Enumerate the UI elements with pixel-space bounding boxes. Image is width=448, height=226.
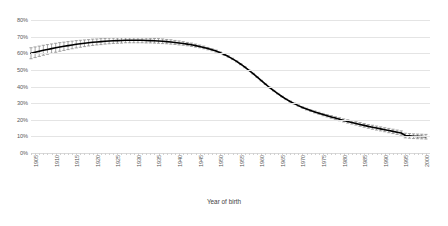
- x-minor-tick: [302, 153, 303, 155]
- x-minor-tick: [274, 153, 275, 155]
- x-minor-tick: [286, 153, 287, 155]
- x-minor-tick: [204, 153, 205, 155]
- x-minor-tick: [171, 153, 172, 155]
- y-tick-label: 40%: [17, 84, 28, 90]
- x-minor-tick: [163, 153, 164, 155]
- x-minor-tick: [191, 153, 192, 155]
- x-minor-tick: [278, 153, 279, 155]
- x-minor-tick: [146, 153, 147, 155]
- gridline: [31, 70, 430, 71]
- x-minor-tick: [105, 153, 106, 155]
- x-minor-tick: [56, 153, 57, 155]
- x-minor-tick: [175, 153, 176, 155]
- x-tick-label: 1920: [95, 155, 101, 167]
- x-minor-tick: [307, 153, 308, 155]
- x-minor-tick: [142, 153, 143, 155]
- gridline: [31, 37, 430, 38]
- x-axis-title: Year of birth: [0, 198, 448, 205]
- x-minor-tick: [422, 153, 423, 155]
- x-minor-tick: [237, 153, 238, 155]
- x-minor-tick: [372, 153, 373, 155]
- x-minor-tick: [72, 153, 73, 155]
- x-minor-tick: [352, 153, 353, 155]
- gridline: [31, 136, 430, 137]
- x-minor-tick: [270, 153, 271, 155]
- x-minor-tick: [35, 153, 36, 155]
- data-line: [31, 40, 426, 136]
- x-minor-tick: [130, 153, 131, 155]
- plot-area: [31, 20, 430, 153]
- x-minor-tick: [97, 153, 98, 155]
- x-minor-tick: [257, 153, 258, 155]
- x-minor-tick: [294, 153, 295, 155]
- x-minor-tick: [418, 153, 419, 155]
- x-minor-tick: [167, 153, 168, 155]
- x-tick-label: 1940: [177, 155, 183, 167]
- figure-caption: [0, 220, 448, 226]
- x-minor-tick: [179, 153, 180, 155]
- x-minor-tick: [381, 153, 382, 155]
- x-minor-tick: [377, 153, 378, 155]
- x-minor-tick: [249, 153, 250, 155]
- gridline: [31, 103, 430, 104]
- x-minor-tick: [60, 153, 61, 155]
- x-minor-tick: [76, 153, 77, 155]
- x-tick-label: 1905: [33, 155, 39, 167]
- x-minor-tick: [47, 153, 48, 155]
- x-minor-tick: [39, 153, 40, 155]
- x-minor-tick: [138, 153, 139, 155]
- x-minor-tick: [385, 153, 386, 155]
- x-minor-tick: [159, 153, 160, 155]
- x-minor-tick: [89, 153, 90, 155]
- gridline: [31, 20, 430, 21]
- x-tick-label: 1925: [115, 155, 121, 167]
- x-minor-tick: [150, 153, 151, 155]
- x-minor-tick: [80, 153, 81, 155]
- x-tick-label: 1930: [136, 155, 142, 167]
- x-minor-tick: [327, 153, 328, 155]
- y-tick-label: 20%: [17, 117, 28, 123]
- x-tick-label: 1915: [74, 155, 80, 167]
- x-minor-tick: [360, 153, 361, 155]
- x-minor-tick: [261, 153, 262, 155]
- y-tick-label: 30%: [17, 100, 28, 106]
- x-tick-label: 1935: [156, 155, 162, 167]
- x-minor-tick: [245, 153, 246, 155]
- y-tick-label: 50%: [17, 67, 28, 73]
- x-minor-tick: [84, 153, 85, 155]
- x-minor-tick: [253, 153, 254, 155]
- y-axis: 0%10%20%30%40%50%60%70%80%: [0, 20, 28, 153]
- x-minor-tick: [31, 153, 32, 155]
- x-minor-tick: [393, 153, 394, 155]
- x-minor-tick: [401, 153, 402, 155]
- x-minor-tick: [121, 153, 122, 155]
- y-tick-label: 10%: [17, 133, 28, 139]
- x-minor-tick: [134, 153, 135, 155]
- x-minor-tick: [126, 153, 127, 155]
- gridline: [31, 120, 430, 121]
- x-tick-label: 1985: [362, 155, 368, 167]
- x-minor-tick: [356, 153, 357, 155]
- x-tick-label: 1975: [321, 155, 327, 167]
- y-tick-label: 70%: [17, 34, 28, 40]
- x-minor-tick: [208, 153, 209, 155]
- x-minor-tick: [405, 153, 406, 155]
- x-minor-tick: [113, 153, 114, 155]
- x-minor-tick: [426, 153, 427, 155]
- x-minor-tick: [409, 153, 410, 155]
- x-minor-tick: [368, 153, 369, 155]
- x-minor-tick: [101, 153, 102, 155]
- x-minor-tick: [216, 153, 217, 155]
- x-minor-tick: [183, 153, 184, 155]
- x-minor-tick: [224, 153, 225, 155]
- x-minor-tick: [335, 153, 336, 155]
- x-minor-tick: [187, 153, 188, 155]
- x-minor-tick: [200, 153, 201, 155]
- x-tick-label: 1950: [218, 155, 224, 167]
- x-minor-tick: [298, 153, 299, 155]
- x-minor-tick: [241, 153, 242, 155]
- x-tick-label: 1980: [342, 155, 348, 167]
- x-minor-tick: [414, 153, 415, 155]
- x-tick-label: 1995: [403, 155, 409, 167]
- x-minor-tick: [52, 153, 53, 155]
